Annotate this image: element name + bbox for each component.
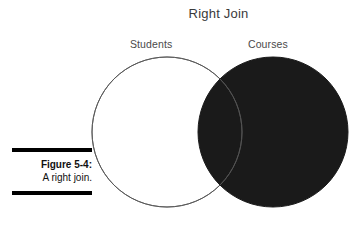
figure-container: Right Join Students Courses Figure 5-4: … [0,0,361,228]
caption-text: Figure 5-4: A right join. [12,159,92,184]
caption-figure-number: Figure 5-4: [12,159,92,172]
caption-rule-bottom [12,191,92,195]
caption-description: A right join. [12,172,92,185]
figure-caption: Figure 5-4: A right join. [12,148,92,195]
caption-rule-top [12,148,92,152]
